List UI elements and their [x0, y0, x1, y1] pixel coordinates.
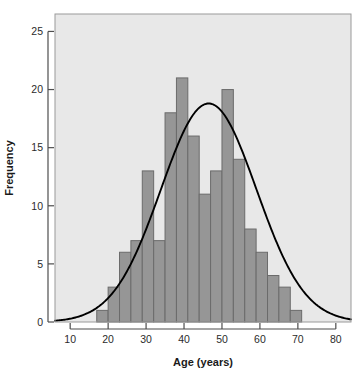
histogram-chart: 0510152025 1020304050607080 Age (years) …	[0, 0, 364, 379]
histogram-bar	[211, 171, 222, 322]
histogram-bar	[120, 252, 131, 322]
x-axis-tick-label: 80	[330, 333, 342, 345]
x-axis-tick-label: 70	[292, 333, 304, 345]
histogram-bar	[279, 287, 290, 322]
histogram-bar	[222, 90, 233, 322]
x-axis-tick-label: 20	[102, 333, 114, 345]
x-axis-title: Age (years)	[173, 356, 233, 368]
x-axis-tick-label: 10	[64, 333, 76, 345]
y-axis-tick-label: 15	[31, 141, 43, 153]
histogram-bar	[142, 171, 153, 322]
y-axis-tick-label: 20	[31, 83, 43, 95]
y-axis-title: Frequency	[3, 139, 15, 196]
y-axis-tick-label: 10	[31, 200, 43, 212]
histogram-bar	[290, 310, 301, 322]
histogram-bar	[165, 113, 176, 322]
y-axis-tick-label: 0	[37, 316, 43, 328]
histogram-bar	[154, 241, 165, 322]
x-axis-tick-label: 30	[140, 333, 152, 345]
y-axis-tick-label: 5	[37, 258, 43, 270]
y-axis-tick-label: 25	[31, 25, 43, 37]
chart-canvas: 0510152025 1020304050607080 Age (years) …	[0, 0, 364, 379]
x-axis-tick-label: 50	[216, 333, 228, 345]
histogram-bar	[268, 276, 279, 322]
x-axis-tick-label: 40	[178, 333, 190, 345]
histogram-bar	[97, 310, 108, 322]
histogram-bar	[256, 252, 267, 322]
histogram-bar	[199, 194, 210, 322]
x-axis-tick-label: 60	[254, 333, 266, 345]
histogram-bar	[233, 159, 244, 322]
histogram-bar	[188, 136, 199, 322]
histogram-bar	[245, 229, 256, 322]
histogram-bar	[176, 78, 187, 322]
